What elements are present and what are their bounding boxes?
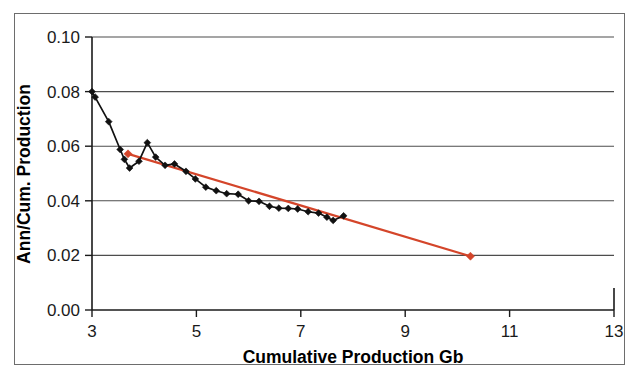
y-axis-ticks: [85, 37, 92, 310]
x-tick-label: 7: [296, 322, 305, 341]
y-tick-label: 0.04: [47, 192, 80, 211]
x-tick-label: 3: [87, 322, 96, 341]
x-tick-label: 11: [501, 322, 519, 341]
x-tick-labels: 35791113: [87, 322, 623, 341]
x-axis-title: Cumulative Production Gb: [243, 347, 464, 367]
y-tick-labels: 0.000.020.040.060.080.10: [47, 28, 80, 320]
x-tick-label: 5: [192, 322, 201, 341]
y-axis-title: Ann/Cum. Production: [14, 84, 34, 264]
figure-container: 35791113 0.000.020.040.060.080.10 Cumula…: [0, 0, 639, 379]
y-tick-label: 0.00: [47, 301, 80, 320]
y-tick-label: 0.08: [47, 83, 80, 102]
x-axis-ticks: [92, 310, 614, 317]
chart-plot: 35791113 0.000.020.040.060.080.10 Cumula…: [0, 0, 639, 379]
y-tick-label: 0.02: [47, 246, 80, 265]
y-tick-label: 0.10: [47, 28, 80, 47]
plot-background: [92, 37, 614, 310]
y-tick-label: 0.06: [47, 137, 80, 156]
x-tick-label: 9: [400, 322, 409, 341]
x-tick-label: 13: [605, 322, 624, 341]
